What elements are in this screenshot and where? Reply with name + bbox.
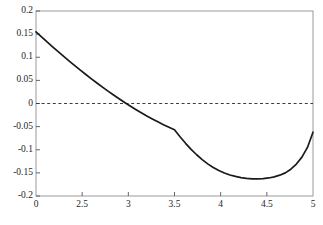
x-tick-label: 0 [16,200,56,210]
x-tick-label: 4 [201,200,241,210]
x-tick-label: 2.5 [62,200,102,210]
x-tick-label: 3.5 [155,200,195,210]
x-tick-label: 3 [108,200,148,210]
x-tick-label: 5 [293,200,323,210]
y-tick-label: -0.15 [13,168,33,178]
y-tick-label: -0.2 [18,191,33,201]
y-tick-label: 0 [28,99,33,109]
y-tick-label: -0.1 [18,145,33,155]
y-tick-label: 0.05 [16,75,33,85]
chart-figure: 02.533.544.55 0.20.150.10.050-0.05-0.1-0… [0,0,323,225]
y-tick-label: 0.2 [21,6,33,16]
plot-canvas [0,0,323,225]
x-tick-label: 4.5 [247,200,287,210]
y-tick-label: 0.15 [16,29,33,39]
y-tick-label: -0.05 [13,122,33,132]
y-tick-label: 0.1 [21,52,33,62]
